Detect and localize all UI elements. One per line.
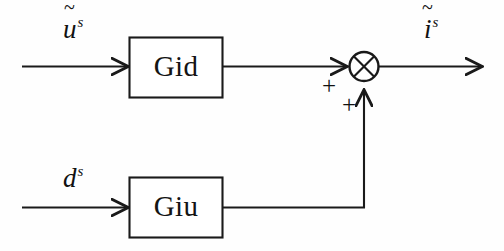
signal-label-input-bottom: ds: [63, 165, 82, 192]
signal-accent-group-u: ~u: [63, 16, 77, 43]
signal-base-u: u: [63, 14, 77, 44]
signal-label-output: ~is: [424, 16, 437, 43]
signal-base-d: d: [63, 163, 77, 193]
signal-accent-group-i: ~i: [424, 16, 432, 43]
block-label-gid: Gid: [129, 52, 223, 81]
block-label-giu: Giu: [129, 192, 223, 221]
tilde-accent-icon: ~: [64, 0, 75, 17]
signal-superscript-i: s: [433, 14, 439, 30]
signal-superscript-u: s: [78, 14, 84, 30]
signal-base-i: i: [424, 14, 432, 44]
signal-superscript-d: s: [78, 163, 84, 179]
tilde-accent-icon-output: ~: [422, 0, 433, 17]
sign-top-input: +: [322, 73, 336, 98]
sign-bottom-input: +: [342, 92, 356, 117]
block-diagram-figure: Gid Giu ~us ds ~is + +: [0, 0, 504, 251]
signal-label-input-top: ~us: [63, 16, 82, 43]
